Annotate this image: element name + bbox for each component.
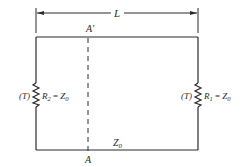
length-label: L <box>113 7 120 19</box>
arrowhead-left-icon <box>37 11 44 15</box>
bottom-wire-impedance-label: Z0 <box>113 137 123 150</box>
left-resistor-label: R2 = Z0 <box>41 91 69 102</box>
left-resistor-icon <box>33 83 39 107</box>
right-resistor-prefix: (T) <box>181 91 192 101</box>
transmission-line-diagram: L A' A Z0 (T) R2 = Z0 (T) R1 = Z0 <box>0 0 247 167</box>
right-resistor-icon <box>195 83 201 107</box>
right-resistor-label: R1 = Z0 <box>203 91 231 102</box>
top-marker-label: A' <box>85 23 95 34</box>
arrowhead-right-icon <box>190 11 197 15</box>
bottom-marker-label: A <box>84 154 92 165</box>
left-resistor-prefix: (T) <box>19 91 30 101</box>
